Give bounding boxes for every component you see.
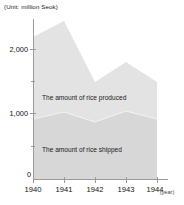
- y-tick-label-2000: 2,000: [10, 45, 29, 54]
- x-axis-label: (year): [160, 189, 175, 195]
- x-tick-label-1943: 1943: [118, 185, 135, 194]
- chart-container: (Unit: million Seok) 2,000 1,000 0 1940 …: [0, 0, 184, 205]
- area-chart-svg: 2,000 1,000 0 1940 1941 1942 1943 1944 (…: [0, 0, 184, 205]
- series-label-shipped: The amount of rice shipped: [42, 146, 122, 154]
- y-tick-label-0: 0: [27, 170, 31, 179]
- y-tick-label-1000: 1,000: [10, 109, 29, 118]
- x-tick-label-1940: 1940: [25, 185, 42, 194]
- series-label-produced: The amount of rice produced: [42, 94, 127, 102]
- x-tick-label-1942: 1942: [87, 185, 104, 194]
- x-tick-label-1941: 1941: [56, 185, 73, 194]
